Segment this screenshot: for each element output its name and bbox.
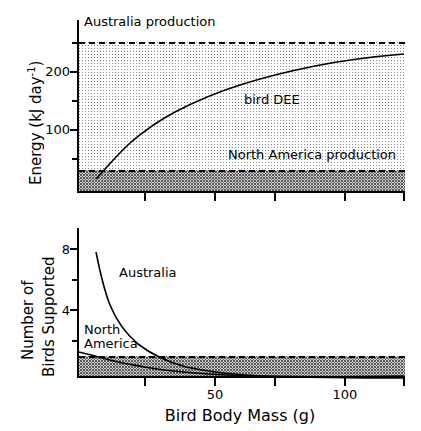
top-panel-ytick-100: 100 bbox=[40, 122, 70, 137]
bottom-panel-xtick-mark-75 bbox=[274, 378, 276, 386]
bottom-panel-xtick-50: 50 bbox=[195, 387, 235, 402]
bottom-panel-ytick-8: 8 bbox=[48, 242, 70, 257]
bottom-panel-y-axis bbox=[77, 228, 79, 378]
bottom-panel-xtick-mark-125 bbox=[403, 378, 405, 386]
bottom-panel-ytick-mark-minor-2 bbox=[72, 340, 79, 342]
bottom-panel-ytick-mark-4 bbox=[70, 309, 79, 311]
top-panel: Energy (kJ day-1) 200 100 bbox=[0, 0, 421, 210]
north-america-production-label: North America production bbox=[228, 148, 396, 162]
bottom-panel-ytick-4: 4 bbox=[48, 303, 70, 318]
top-panel-ytick-mark-200 bbox=[70, 71, 79, 73]
bottom-panel-xtick-mark-100 bbox=[344, 378, 346, 386]
north-america-birds-label-line1: North bbox=[84, 323, 120, 337]
top-panel-ytick-mark-minor-150 bbox=[72, 100, 79, 102]
top-panel-xtick-mark-50 bbox=[214, 193, 216, 201]
australia-birds-label: Australia bbox=[119, 266, 177, 280]
australia-production-label: Australia production bbox=[84, 15, 215, 29]
bottom-panel-xtick-100: 100 bbox=[324, 387, 366, 402]
bottom-panel-xtick-mark-25 bbox=[144, 378, 146, 386]
top-panel-ytick-200: 200 bbox=[40, 64, 70, 79]
bottom-panel-x-axis bbox=[77, 376, 405, 378]
bottom-panel-ytick-mark-8 bbox=[70, 248, 79, 250]
top-panel-ytick-mark-minor-50 bbox=[72, 158, 79, 160]
bird-dee-curve bbox=[0, 0, 421, 210]
top-panel-xtick-mark-25 bbox=[144, 193, 146, 201]
bottom-panel: Number of Birds Supported 8 4 bbox=[0, 210, 421, 431]
x-axis-title: Bird Body Mass (g) bbox=[110, 406, 370, 425]
top-panel-xtick-mark-100 bbox=[344, 193, 346, 201]
top-panel-xtick-mark-125 bbox=[403, 193, 405, 201]
top-panel-ytick-mark-minor-250 bbox=[72, 42, 79, 44]
top-panel-x-axis bbox=[77, 191, 405, 193]
top-panel-ytick-mark-100 bbox=[70, 129, 79, 131]
bottom-panel-ytick-mark-minor-6 bbox=[72, 279, 79, 281]
bird-dee-label: bird DEE bbox=[244, 93, 300, 107]
top-panel-y-axis bbox=[77, 20, 79, 193]
top-panel-xtick-mark-75 bbox=[274, 193, 276, 201]
north-america-birds-label-line2: America bbox=[84, 337, 138, 351]
bottom-panel-xtick-mark-50 bbox=[214, 378, 216, 386]
figure-root: Energy (kJ day-1) 200 100 bbox=[0, 0, 421, 431]
